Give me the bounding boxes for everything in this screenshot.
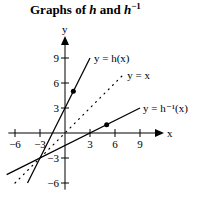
series-line-h_inverse bbox=[7, 108, 140, 175]
y-axis-arrow bbox=[61, 36, 69, 45]
series-label-h_inverse: y = h⁻¹(x) bbox=[143, 102, 188, 115]
x-tick-label: 6 bbox=[112, 138, 118, 150]
y-tick-label: 6 bbox=[54, 77, 60, 89]
x-axis-arrow bbox=[155, 129, 164, 137]
marked-point-h bbox=[71, 89, 76, 94]
x-tick-label: 9 bbox=[137, 138, 143, 150]
series-label-identity: y = x bbox=[127, 69, 150, 81]
x-axis-label: x bbox=[167, 127, 173, 139]
x-tick-label: 3 bbox=[87, 138, 93, 150]
y-tick-label: 3 bbox=[54, 102, 60, 114]
y-tick-label: 9 bbox=[54, 52, 60, 64]
series-line-identity bbox=[15, 75, 123, 183]
y-tick-label: −6 bbox=[47, 177, 59, 189]
y-axis-label: y bbox=[62, 23, 68, 35]
x-tick-label: −6 bbox=[9, 138, 21, 150]
marked-point-h_inverse bbox=[104, 122, 109, 127]
series-group bbox=[7, 58, 140, 183]
series-labels: y = h(x)y = xy = h⁻¹(x) bbox=[94, 52, 188, 115]
chart: Graphs of h and h−1 xy−6−3369963−3−6 y =… bbox=[0, 0, 209, 199]
chart-title: Graphs of h and h−1 bbox=[30, 1, 141, 17]
series-label-h: y = h(x) bbox=[94, 52, 130, 65]
